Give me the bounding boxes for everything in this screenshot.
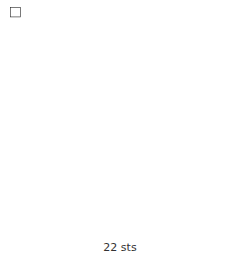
stitch-count-label: 22 sts	[0, 241, 240, 254]
chart-cell	[11, 8, 21, 17]
knitting-chart-grid	[10, 7, 229, 233]
row-number-column	[234, 7, 251, 233]
